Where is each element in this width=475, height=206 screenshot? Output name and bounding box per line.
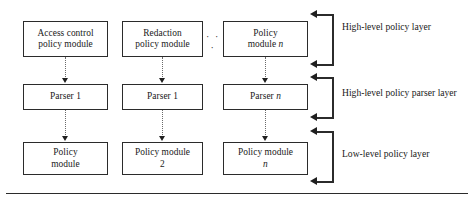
box-parser-1-col2: Parser 1 [122,84,203,110]
box-line-2: policy module [135,39,190,50]
box-line-1: Access control [37,28,93,39]
box-line-1: Policy module [238,147,293,158]
connector-col2-row2-row3 [162,110,163,137]
layer-label-low-level-policy: Low-level policy layer [342,148,429,160]
box-line-2: module [51,159,79,170]
box-line-1: Parser 1 [50,91,81,102]
brace-arm-bottom [317,117,333,119]
box-line-1: Policy module [135,147,190,158]
arrowhead-col3-row3 [262,136,268,141]
box-index-italic: n [238,159,293,170]
box-line-1: Policy [248,28,284,39]
brace-arm-top [317,77,333,79]
brace-arrowhead-top [310,10,317,18]
brace-low-level-policy-layer [310,131,334,183]
brace-spine [332,14,334,66]
brace-arrowhead-top [310,73,317,81]
box-index-italic: n [279,39,284,49]
box-policy-module-n: Policy module n [223,21,308,57]
box-line-1-text: Parser [250,91,276,101]
brace-arm-top [317,131,333,133]
box-line-2: 2 [135,159,190,170]
connector-col3-row1-row2 [265,57,266,79]
brace-spine [332,131,334,183]
brace-high-level-policy-layer [310,14,334,66]
brace-high-level-policy-parser-layer [310,77,334,119]
arrowhead-col2-row3 [159,136,165,141]
brace-arm-bottom [317,64,333,66]
arrowhead-col1-row3 [62,136,68,141]
brace-arm-top [317,14,333,16]
box-line-1: Redaction [135,28,190,39]
brace-arrowhead-top [310,127,317,135]
box-line-1: Policy [51,147,79,158]
brace-spine [332,77,334,119]
arrowhead-col2-row2 [159,78,165,83]
connector-col1-row1-row2 [65,57,66,79]
brace-arrowhead-bottom [310,113,317,121]
box-policy-module-n-low: Policy module n [223,142,308,175]
box-line-2-text: module [248,39,279,49]
layer-label-high-level-policy: High-level policy layer [342,21,431,33]
box-redaction-policy-module: Redaction policy module [122,21,203,57]
layer-label-high-level-policy-parser: High-level policy parser layer [342,87,457,99]
box-access-control-policy-module: Access control policy module [23,21,108,57]
bottom-divider [6,193,468,194]
box-line-2: policy module [37,39,93,50]
box-line-2: module n [248,39,284,50]
box-line-1: Parser 1 [147,91,178,102]
connector-col1-row2-row3 [65,110,66,137]
arrowhead-col1-row2 [62,78,68,83]
arrowhead-col3-row2 [262,78,268,83]
box-parser-1-col1: Parser 1 [23,84,108,110]
box-policy-module-col1: Policy module [23,142,108,175]
brace-arrowhead-bottom [310,60,317,68]
brace-arm-bottom [317,181,333,183]
brace-arrowhead-bottom [310,177,317,185]
box-parser-n: Parser n [223,84,308,110]
architecture-diagram: Access control policy module Redaction p… [0,0,475,206]
box-index-italic: n [276,91,281,101]
box-policy-module-2: Policy module 2 [122,142,203,175]
connector-col3-row2-row3 [265,110,266,137]
ellipsis-separator: · · · [203,31,223,53]
connector-col2-row1-row2 [162,57,163,79]
box-line-1: Parser n [250,91,281,102]
